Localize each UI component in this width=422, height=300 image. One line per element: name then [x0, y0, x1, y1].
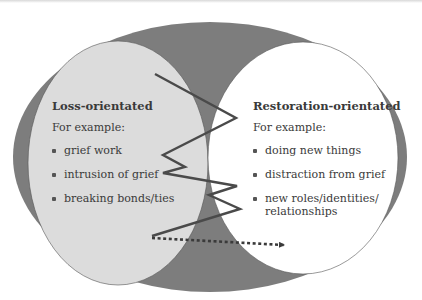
- loss-examples-list: grief work intrusion of grief breaking b…: [50, 144, 174, 216]
- restoration-item: distraction from grief: [251, 168, 385, 181]
- bullet-icon: [52, 149, 56, 153]
- bullet-icon: [52, 173, 56, 177]
- restoration-subheading: For example:: [253, 121, 326, 134]
- bullet-icon: [52, 197, 56, 201]
- restoration-heading: Restoration-orientated: [253, 99, 401, 113]
- restoration-item-continuation: relationships: [251, 205, 385, 218]
- restoration-examples-list: doing new things distraction from grief …: [251, 144, 385, 229]
- loss-item: intrusion of grief: [50, 168, 174, 181]
- loss-item: grief work: [50, 144, 174, 157]
- loss-subheading: For example:: [52, 121, 125, 134]
- bullet-icon: [253, 149, 257, 153]
- loss-heading: Loss-orientated: [52, 99, 153, 113]
- restoration-item: new roles/identities/: [251, 192, 385, 205]
- bullet-icon: [253, 173, 257, 177]
- loss-item: breaking bonds/ties: [50, 192, 174, 205]
- bullet-icon: [253, 197, 257, 201]
- restoration-item: doing new things: [251, 144, 385, 157]
